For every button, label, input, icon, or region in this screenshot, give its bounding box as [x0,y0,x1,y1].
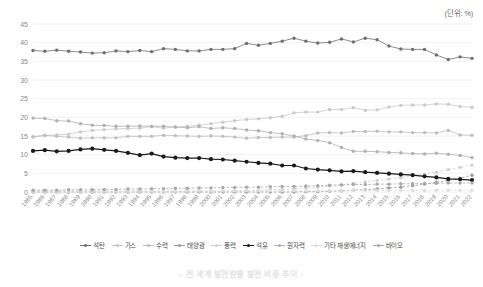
legend-item-7[interactable]: 기타 재생에너지 [311,240,365,250]
data-point [304,137,307,140]
data-point [197,156,201,160]
data-point [447,188,450,191]
data-point [186,134,189,137]
x-axis-tick-label: 2019 [424,193,438,207]
legend-marker-icon [143,242,154,249]
legend-item-3[interactable]: 태양광 [174,240,204,250]
data-point [269,42,272,45]
data-point [351,169,355,173]
data-point [269,185,272,188]
data-point [434,175,438,179]
data-point [399,189,402,192]
data-point [185,156,189,160]
data-point [280,189,283,192]
data-point [186,187,189,190]
line-chart-svg: 0510152025303540451985198619871988198919… [0,18,483,210]
data-point [138,135,141,138]
data-point [102,188,105,191]
x-axis-tick-label: 1993 [115,193,129,207]
data-point [304,39,307,42]
data-point [162,125,165,128]
data-point [221,189,224,192]
data-point [245,118,248,121]
data-point [399,130,402,133]
data-point [126,135,129,138]
legend-item-2[interactable]: 수력 [143,240,167,250]
data-point [55,48,58,51]
data-point [458,133,461,136]
data-point [256,161,260,165]
data-point [245,185,248,188]
data-point [411,189,414,192]
data-point [423,103,426,106]
data-point [114,125,117,128]
data-point [411,103,414,106]
data-point [328,131,331,134]
data-point [447,153,450,156]
legend-item-6[interactable]: 원자력 [274,240,304,250]
series-line [33,130,472,138]
series-석유 [31,147,474,183]
footer-bullet-right: ● [300,272,304,278]
data-point [79,50,82,53]
data-point [435,53,438,56]
data-point [304,110,307,113]
data-point [102,51,105,54]
data-point [31,116,34,119]
data-point [399,185,402,188]
legend-item-0[interactable]: 석탄 [80,240,104,250]
x-axis-tick-label: 1994 [127,193,141,207]
legend-label: 가스 [125,240,136,250]
data-point [292,185,295,188]
data-point [316,189,319,192]
data-point [245,137,248,140]
x-axis-tick-label: 1988 [56,193,70,207]
data-point [399,151,402,154]
chart-footer-title: ● 전 세계 발전원별 발전 비중 추이 ● [0,268,483,279]
legend-label: 원자력 [287,240,304,250]
plot-area: 0510152025303540451985198619871988198919… [0,18,483,210]
data-point [221,120,224,123]
legend-marker-icon [112,242,123,249]
data-point [150,125,153,128]
data-point [162,47,165,50]
data-point [447,168,450,171]
data-point [340,183,343,186]
legend-label: 바이오 [386,240,403,250]
footer-title-text: 전 세계 발전원별 발전 비중 추이 [186,270,297,279]
data-point [328,108,331,111]
data-point [399,182,402,185]
legend-label: 수력 [156,240,167,250]
legend-label: 태양광 [187,240,204,250]
data-point [316,110,319,113]
data-point [197,49,200,52]
data-point [375,179,378,182]
data-point [79,130,82,133]
data-point [435,182,438,185]
data-point [435,151,438,154]
x-axis-tick-label: 1995 [139,193,153,207]
x-axis-tick-label: 1998 [175,193,189,207]
data-point [186,49,189,52]
data-point [174,125,177,128]
series-line [33,38,472,59]
legend-item-4[interactable]: 풍력 [211,240,235,250]
data-point [79,122,82,125]
footer-bullet-left: ● [179,272,183,278]
legend-label: 석탄 [93,240,104,250]
x-axis-tick-label: 2020 [436,193,450,207]
y-axis-tick-label: 40 [20,39,28,46]
data-point [233,47,236,50]
data-point [352,189,355,192]
data-point [257,129,260,132]
legend-item-5[interactable]: 석유 [243,240,267,250]
data-point [328,141,331,144]
data-point [411,182,414,185]
legend-item-8[interactable]: 바이오 [373,240,403,250]
data-point [280,115,283,118]
data-point [352,106,355,109]
data-point [304,189,307,192]
data-point [197,189,200,192]
data-point [387,172,391,176]
legend-item-1[interactable]: 가스 [112,240,136,250]
